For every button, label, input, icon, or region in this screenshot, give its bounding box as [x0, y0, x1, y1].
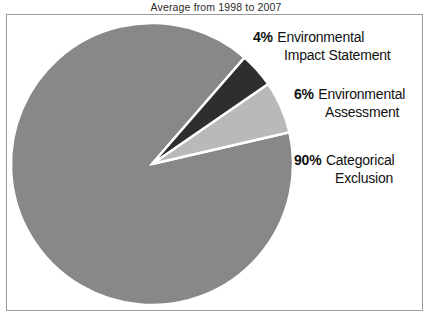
slice-name-ce-line1: Categorical	[326, 152, 395, 168]
slice-name-ea-line2: Assessment	[325, 104, 405, 120]
slice-label-categorical-exclusion: 90% Categorical Exclusion	[294, 151, 395, 186]
slice-percent-ce: 90%	[294, 152, 321, 168]
chart-title: Average from 1998 to 2007	[0, 1, 432, 13]
slice-percent-ea: 6%	[294, 86, 314, 102]
slice-name-eis-line2: Impact Statement	[284, 47, 391, 63]
slice-percent-eis: 4%	[253, 29, 273, 45]
slice-label-environmental-impact-statement: 4% Environmental Impact Statement	[253, 28, 391, 63]
pie-chart-figure: Average from 1998 to 2007 4% Environment…	[0, 0, 432, 318]
slice-name-ea-line1: Environmental	[318, 86, 405, 102]
slice-label-environmental-assessment: 6% Environmental Assessment	[294, 85, 405, 120]
slice-name-ce-line2: Exclusion	[335, 170, 395, 186]
slice-name-eis-line1: Environmental	[277, 29, 364, 45]
